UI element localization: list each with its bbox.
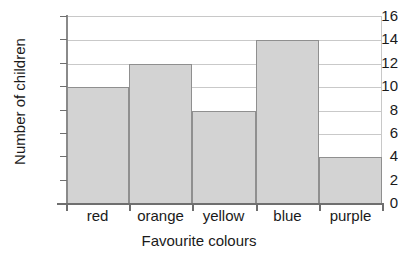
gridline xyxy=(66,64,381,65)
y-axis-tick xyxy=(60,16,67,17)
bar-orange xyxy=(129,64,192,204)
x-axis-tick xyxy=(382,203,384,211)
y-axis-tick xyxy=(60,133,67,134)
bar-red xyxy=(66,87,129,204)
y-axis-tick xyxy=(60,86,67,87)
x-axis-label-red: red xyxy=(66,207,129,225)
x-axis-label-purple: purple xyxy=(319,207,382,225)
y-axis-tick xyxy=(60,63,67,64)
y-axis-tick-label: 4 xyxy=(356,148,398,163)
y-axis-tick xyxy=(60,156,67,157)
x-axis-title: Favourite colours xyxy=(0,232,398,249)
x-axis-line xyxy=(57,203,383,205)
bar-yellow xyxy=(192,111,256,204)
bar-chart: Number of children 0246810121416 redoran… xyxy=(0,0,398,263)
bar-blue xyxy=(256,40,319,204)
y-axis-tick xyxy=(60,180,67,181)
y-axis-tick-label: 16 xyxy=(356,8,398,23)
y-axis-tick-label: 14 xyxy=(356,31,398,46)
plot-area xyxy=(66,16,382,203)
y-axis-tick-label: 12 xyxy=(356,55,398,70)
y-axis-title: Number of children xyxy=(6,0,32,203)
y-axis-tick-label: 2 xyxy=(356,172,398,187)
x-axis-label-orange: orange xyxy=(129,207,192,225)
y-axis-tick-label: 6 xyxy=(356,125,398,140)
y-axis-tick xyxy=(60,39,67,40)
x-axis-label-yellow: yellow xyxy=(192,207,255,225)
y-axis-tick xyxy=(60,110,67,111)
y-axis-tick-label: 10 xyxy=(356,78,398,93)
gridline xyxy=(66,40,381,41)
y-axis-tick-label: 8 xyxy=(356,102,398,117)
x-axis-label-blue: blue xyxy=(256,207,319,225)
